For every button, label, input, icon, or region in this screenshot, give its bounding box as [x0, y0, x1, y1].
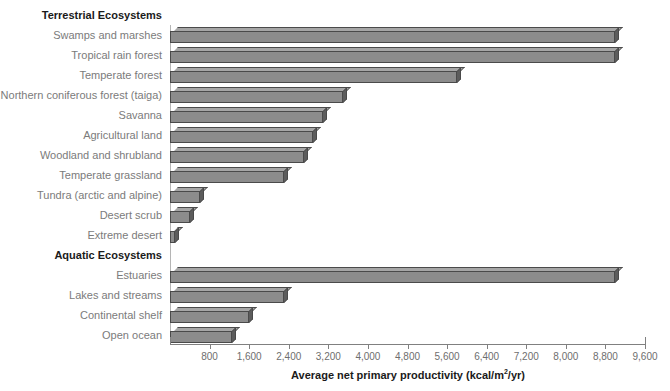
category-label: Agricultural land [0, 125, 166, 145]
bar [170, 287, 284, 303]
bar-front-face [170, 131, 313, 143]
bar-side-face [615, 267, 619, 283]
bar [170, 207, 190, 223]
chart-row: Tropical rain forest [0, 45, 670, 65]
x-axis-tick [249, 344, 250, 349]
category-label: Temperate grassland [0, 165, 166, 185]
chart-row: Savanna [0, 105, 670, 125]
bar-front-face [170, 91, 343, 103]
category-label: Tundra (arctic and alpine) [0, 185, 166, 205]
x-axis-tick [605, 344, 606, 349]
chart-row: Continental shelf [0, 305, 670, 325]
bar-front-face [170, 231, 175, 243]
bar-front-face [170, 51, 615, 63]
bar [170, 47, 615, 63]
bar-front-face [170, 311, 249, 323]
chart-row: Extreme desert [0, 225, 670, 245]
x-axis-tick [487, 344, 488, 349]
category-label: Lakes and streams [0, 285, 166, 305]
bar-front-face [170, 291, 284, 303]
group-header-label: Terrestrial Ecosystems [0, 5, 166, 25]
bar-side-face [284, 167, 288, 183]
bar-front-face [170, 211, 190, 223]
x-axis-title-main: Average net primary productivity (kcal/m [291, 369, 504, 381]
bar [170, 127, 313, 143]
chart-row: Temperate grassland [0, 165, 670, 185]
x-axis-tick [408, 344, 409, 349]
bar [170, 27, 615, 43]
x-axis-tick [210, 344, 211, 349]
chart-row: Open ocean [0, 325, 670, 345]
category-label: Desert scrub [0, 205, 166, 225]
bar-side-face [615, 27, 619, 43]
bar-side-face [343, 87, 347, 103]
x-axis-tick [328, 344, 329, 349]
group-header-row: Terrestrial Ecosystems [0, 5, 670, 25]
bar-front-face [170, 71, 457, 83]
category-label: Open ocean [0, 325, 166, 345]
chart-row: Swamps and marshes [0, 25, 670, 45]
bar [170, 67, 457, 83]
bar-front-face [170, 111, 323, 123]
category-label: Temperate forest [0, 65, 166, 85]
bar-side-face [175, 227, 179, 243]
x-axis-tick [566, 344, 567, 349]
group-header-label: Aquatic Ecosystems [0, 245, 166, 265]
x-axis-tick [368, 344, 369, 349]
chart-row: Woodland and shrubland [0, 145, 670, 165]
bar-side-face [232, 327, 236, 343]
chart-row: Northern coniferous forest (taiga) [0, 85, 670, 105]
bar-chart: Terrestrial EcosystemsSwamps and marshes… [0, 0, 670, 391]
bar [170, 147, 304, 163]
x-axis-tick [289, 344, 290, 349]
bar-front-face [170, 151, 304, 163]
bar-front-face [170, 271, 615, 283]
bar-side-face [249, 307, 253, 323]
bar-side-face [323, 107, 327, 123]
bar [170, 187, 200, 203]
bar [170, 167, 284, 183]
chart-row: Desert scrub [0, 205, 670, 225]
bar [170, 107, 323, 123]
bar-side-face [284, 287, 288, 303]
bar-front-face [170, 31, 615, 43]
category-label: Northern coniferous forest (taiga) [0, 85, 166, 105]
x-axis-tick [645, 344, 646, 349]
category-label: Woodland and shrubland [0, 145, 166, 165]
x-axis-title-tail: /yr) [508, 369, 525, 381]
bar [170, 307, 249, 323]
bar [170, 267, 615, 283]
bar [170, 227, 175, 243]
chart-row: Tundra (arctic and alpine) [0, 185, 670, 205]
bar-front-face [170, 171, 284, 183]
x-axis-tick [447, 344, 448, 349]
x-axis-tick [526, 344, 527, 349]
bar-side-face [200, 187, 204, 203]
group-header-row: Aquatic Ecosystems [0, 245, 670, 265]
category-label: Continental shelf [0, 305, 166, 325]
chart-row: Estuaries [0, 265, 670, 285]
category-label: Swamps and marshes [0, 25, 166, 45]
category-label: Extreme desert [0, 225, 166, 245]
chart-row: Agricultural land [0, 125, 670, 145]
bar-front-face [170, 331, 232, 343]
bar-front-face [170, 191, 200, 203]
chart-row: Lakes and streams [0, 285, 670, 305]
bar-side-face [313, 127, 317, 143]
chart-row: Temperate forest [0, 65, 670, 85]
category-label: Estuaries [0, 265, 166, 285]
bar-side-face [190, 207, 194, 223]
category-label: Tropical rain forest [0, 45, 166, 65]
bar [170, 327, 232, 343]
bar [170, 87, 343, 103]
category-label: Savanna [0, 105, 166, 125]
bar-side-face [457, 67, 461, 83]
bar-side-face [304, 147, 308, 163]
bar-side-face [615, 47, 619, 63]
x-axis-tick-label: 9,600 [615, 351, 670, 362]
x-axis-title: Average net primary productivity (kcal/m… [170, 368, 646, 381]
